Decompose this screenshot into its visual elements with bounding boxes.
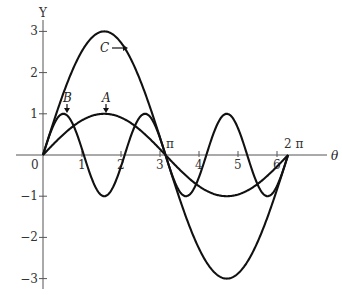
y-axis-label: Y — [38, 6, 48, 20]
annotation-c: C — [100, 41, 128, 55]
curve-c-label: C — [100, 41, 109, 55]
annotation-a: A — [101, 91, 111, 113]
y-tick-label: 1 — [30, 107, 38, 121]
y-tick-label: −2 — [20, 230, 38, 244]
y-tick-label: −1 — [20, 189, 38, 203]
pi-label: π — [166, 137, 174, 151]
two-pi-label: 2 π — [284, 137, 303, 151]
x-tick-label: 3 — [156, 158, 164, 172]
curve-a-label: A — [101, 91, 111, 105]
annotation-b: B — [62, 91, 72, 113]
origin-label: 0 — [31, 158, 39, 172]
arrowhead-icon — [103, 108, 109, 113]
x-tick-label: 5 — [234, 158, 242, 172]
x-axis-label: θ — [331, 149, 339, 163]
y-tick-label: 2 — [30, 66, 38, 80]
curve-b-label: B — [62, 91, 72, 105]
sine-curves-chart: 123456 321−1−2−3 Y θ 0 π 2 π A B C — [0, 0, 342, 295]
y-tick-label: 3 — [30, 24, 38, 38]
y-tick-label: −3 — [20, 272, 38, 286]
arrowhead-icon — [64, 108, 70, 113]
